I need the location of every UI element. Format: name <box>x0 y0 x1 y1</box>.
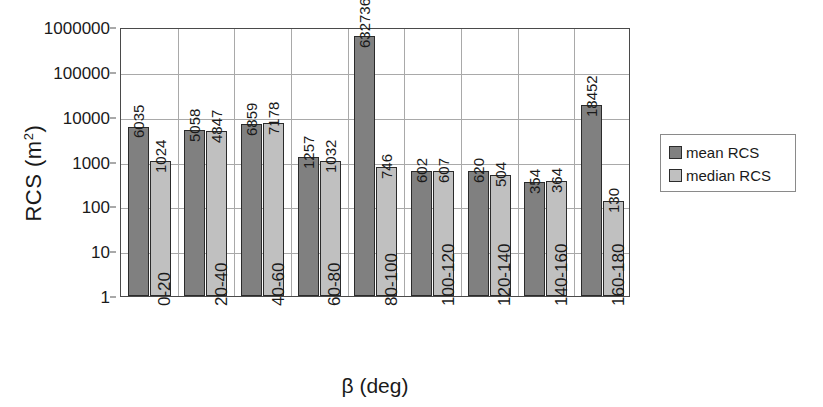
bar-value-label: 620 <box>471 158 486 183</box>
bar-mean-rcs <box>128 127 149 297</box>
y-tick-label: 100000 <box>53 64 110 81</box>
y-tick-mark <box>110 207 116 208</box>
y-tick-mark <box>110 162 116 163</box>
legend-item-mean-rcs: mean RCS <box>669 141 795 164</box>
x-tick-label: 80-100 <box>383 253 400 306</box>
bar-mean-rcs <box>581 105 602 296</box>
bar-value-label: 1257 <box>301 136 316 169</box>
y-tick-label: 10000 <box>63 109 110 126</box>
y-axis-ticks: 1000000100000100001000100101 <box>0 28 116 297</box>
bar-value-label: 18452 <box>584 75 599 117</box>
bar-group: 60351024 <box>121 29 178 296</box>
bar-value-label: 6859 <box>244 103 259 136</box>
bar-mean-rcs <box>411 171 432 296</box>
y-tick-mark <box>110 297 116 298</box>
x-tick-label: 140-160 <box>553 244 570 306</box>
legend-swatch-icon-mean <box>669 146 682 159</box>
bar-value-label: 1032 <box>323 140 338 173</box>
y-tick-label: 1000000 <box>44 20 110 37</box>
y-tick-mark <box>110 72 116 73</box>
rcs-bar-chart: RCS (m2) 1000000100000100001000100101 60… <box>0 0 823 407</box>
y-tick-mark <box>110 252 116 253</box>
x-tick-label: 160-180 <box>610 244 627 306</box>
y-tick-mark <box>110 117 116 118</box>
bar-value-label: 746 <box>379 154 394 179</box>
bar-value-label: 632736 <box>357 0 372 48</box>
x-tick-label: 60-80 <box>326 263 343 306</box>
bar-value-label: 364 <box>549 168 564 193</box>
bar-mean-rcs <box>298 157 319 296</box>
bar-mean-rcs <box>524 182 545 296</box>
y-tick-label: 1000 <box>72 154 110 171</box>
x-tick-label: 0-20 <box>156 272 173 306</box>
x-tick-label: 100-120 <box>440 244 457 306</box>
bar-value-label: 5058 <box>187 109 202 142</box>
bar-group: 50584847 <box>178 29 235 296</box>
legend-swatch-icon-median <box>669 169 682 182</box>
y-tick-label: 1 <box>101 289 110 306</box>
bar-mean-rcs <box>354 36 375 296</box>
chart-legend: mean RCS median RCS <box>660 134 796 192</box>
y-tick-label: 10 <box>91 244 110 261</box>
bar-mean-rcs <box>241 124 262 296</box>
y-tick-label: 100 <box>82 199 110 216</box>
bar-mean-rcs <box>468 171 489 296</box>
x-tick-label: 120-140 <box>496 244 513 306</box>
legend-label-mean: mean RCS <box>686 145 759 160</box>
bar-group: 68597178 <box>234 29 291 296</box>
bar-value-label: 1024 <box>153 140 168 173</box>
bar-value-label: 6035 <box>131 105 146 138</box>
bar-value-label: 354 <box>527 169 542 194</box>
bar-value-label: 4847 <box>209 109 224 142</box>
bar-mean-rcs <box>184 130 205 296</box>
legend-item-median-rcs: median RCS <box>669 164 795 187</box>
x-tick-label: 20-40 <box>213 263 230 306</box>
y-tick-mark <box>110 28 116 29</box>
bar-value-label: 7178 <box>266 102 281 135</box>
bar-value-label: 130 <box>606 188 621 213</box>
bar-value-label: 602 <box>414 158 429 183</box>
x-axis-title: β (deg) <box>260 374 490 398</box>
bar-value-label: 504 <box>493 162 508 187</box>
bar-group: 12571032 <box>291 29 348 296</box>
x-tick-label: 40-60 <box>270 263 287 306</box>
bar-value-label: 607 <box>436 158 451 183</box>
legend-label-median: median RCS <box>686 168 771 183</box>
